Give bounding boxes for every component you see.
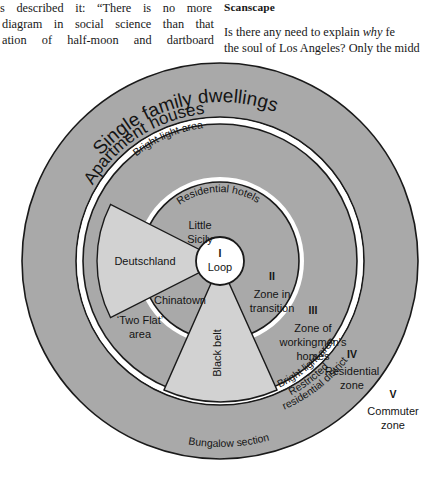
zone-5-name-line2: zone (381, 419, 405, 431)
label-two-flat-area-line1: ‘Two Flat’ (117, 314, 163, 326)
zone-4-name-line1: Residential (325, 365, 379, 377)
book-page: s described it: “There is no more diagra… (0, 0, 442, 495)
label-two-flat-area-line2: area (129, 328, 152, 340)
label-little-sicily-line2: Sicily (187, 233, 213, 245)
zone-3-numeral: III (309, 304, 318, 316)
concentric-zone-diagram: Single family dwellings Apartment houses… (0, 58, 442, 495)
zone-3-name-line1: Zone of (294, 322, 332, 334)
zone-2-numeral: II (269, 270, 275, 282)
right-line-1: Is there any need to explain why fe (224, 24, 442, 40)
label-little-sicily-line1: Little (188, 219, 211, 231)
zone-5-name-line1: Commuter (367, 405, 419, 417)
zone-4-name-line2: zone (340, 379, 364, 391)
zone-3-name-line3: homes (296, 350, 330, 362)
left-line-3: ation of half-moon and dartboard (2, 32, 214, 48)
label-deutschland: Deutschland (114, 255, 175, 267)
left-text-column: s described it: “There is no more diagra… (0, 0, 214, 49)
left-line-1: s described it: “There is no more (0, 0, 212, 16)
zone-2-name-line1: Zone in (254, 288, 291, 300)
zone-2-name-line2: transition (250, 302, 295, 314)
zone-4-numeral: IV (347, 348, 357, 360)
zone-1-name: Loop (208, 261, 232, 273)
zone-1-numeral: I (219, 247, 222, 259)
zone-5-numeral: V (389, 388, 396, 400)
heading-spacer (224, 14, 442, 24)
body-text-band: s described it: “There is no more diagra… (0, 0, 442, 62)
label-chinatown: Chinatown (154, 294, 206, 306)
zone-3-name-line2: workingmen's (279, 336, 347, 348)
section-heading: Scanscape (224, 0, 442, 14)
right-line-1-b: fe (382, 25, 395, 39)
right-line-2: the soul of Los Angeles? Only the midd (224, 40, 442, 56)
italic-why: why (363, 25, 383, 39)
right-text-column: Scanscape Is there any need to explain w… (224, 0, 442, 56)
left-line-2: diagram in social science than that (2, 16, 214, 32)
label-black-belt: Black belt (211, 329, 223, 377)
right-line-1-a: Is there any need to explain (224, 25, 363, 39)
